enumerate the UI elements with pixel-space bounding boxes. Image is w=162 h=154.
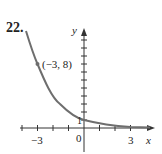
point-label: (−3, 8) [42, 58, 72, 71]
y-axis-label: y [71, 24, 77, 36]
x-tick-label-3: 3 [128, 134, 134, 146]
point-marker [36, 62, 40, 66]
x-tick-label-0: 0 [76, 132, 82, 144]
graph: (−3, 8) y x −3 0 3 1 [0, 0, 162, 154]
x-axis-label: x [145, 134, 151, 146]
y-axis [81, 28, 87, 152]
y-tick-label-1: 1 [77, 115, 82, 126]
y-axis-arrow-icon [81, 28, 87, 36]
exponential-curve [26, 31, 150, 128]
x-tick-label-minus3: −3 [31, 134, 43, 146]
